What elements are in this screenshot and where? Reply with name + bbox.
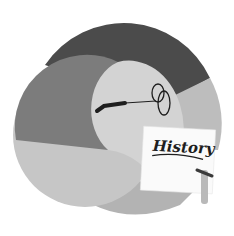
history-illustration: History [0,0,234,236]
illustration-canvas: History [0,0,234,236]
